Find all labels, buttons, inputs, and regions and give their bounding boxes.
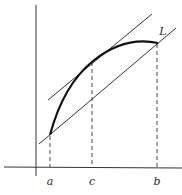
mvt-diagram: a c b L [0, 0, 182, 195]
label-curve-L: L [159, 26, 166, 37]
x-axis [4, 167, 182, 168]
diagram-canvas [0, 0, 182, 195]
secant-line [39, 28, 176, 144]
label-c: c [89, 176, 95, 187]
label-b: b [153, 176, 160, 187]
label-a: a [47, 176, 54, 187]
